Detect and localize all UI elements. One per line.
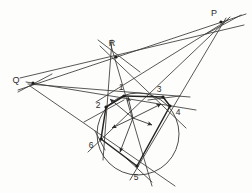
line-Q-to-R-extended <box>20 25 244 78</box>
hex-edge-3-1 <box>124 96 163 97</box>
dot-point-5 <box>135 164 138 167</box>
dot-point-P <box>219 20 222 23</box>
geometric-figure: P Q R 1 2 3 4 5 6 <box>0 0 252 193</box>
secant-R-through-4-short <box>100 46 186 128</box>
secant-P-through-4-and-5 <box>130 18 226 180</box>
hex-edge-6-5 <box>101 139 137 166</box>
label-point-2: 2 <box>96 100 101 110</box>
dot-point-1 <box>122 94 125 97</box>
arrow-to-lower-right <box>133 118 152 125</box>
label-R: R <box>109 38 116 48</box>
dot-point-R <box>114 55 117 58</box>
label-point-3: 3 <box>157 84 162 94</box>
secant-R-through-5 <box>110 42 152 186</box>
label-P: P <box>211 8 217 18</box>
label-point-6: 6 <box>89 140 94 150</box>
dot-point-4 <box>168 104 171 107</box>
dot-point-Q <box>31 81 34 84</box>
label-point-4: 4 <box>176 107 181 117</box>
arrow-star <box>110 97 161 152</box>
label-point-5: 5 <box>134 172 139 182</box>
line-network <box>18 14 246 186</box>
line-Q-R-P-top <box>18 14 246 90</box>
dot-point-2 <box>104 105 107 108</box>
tick-at-R <box>98 40 140 72</box>
label-point-1: 1 <box>119 82 124 92</box>
label-Q: Q <box>12 75 19 85</box>
hex-edge-5-4 <box>137 106 170 166</box>
arrow-to-upper-right <box>133 104 161 118</box>
figure-canvas: P Q R 1 2 3 4 5 6 <box>0 0 252 193</box>
dot-point-3 <box>161 95 164 98</box>
dot-point-6 <box>99 137 102 140</box>
vertex-dots <box>31 20 222 167</box>
